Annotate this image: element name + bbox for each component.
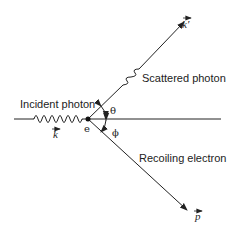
compton-diagram: Incident photon Scattered photon Recoili… [0, 0, 234, 236]
recoil-label: Recoiling electron [139, 152, 226, 164]
k-in-label: k [53, 128, 59, 140]
diagram-svg: Incident photon Scattered photon Recoili… [0, 0, 234, 236]
k-out-label: k′ [182, 18, 190, 30]
p-label: p [194, 210, 201, 222]
electron-label: e [84, 123, 90, 134]
phi-arc [101, 120, 106, 132]
incident-label: Incident photon [20, 98, 95, 110]
scattered-label: Scattered photon [142, 72, 226, 84]
recoil-line [88, 119, 187, 210]
theta-label: θ [110, 105, 116, 116]
phi-label: ϕ [112, 127, 119, 138]
scattered-photon-wave [123, 69, 139, 85]
electron-dot [86, 117, 91, 122]
theta-arc [101, 106, 106, 118]
